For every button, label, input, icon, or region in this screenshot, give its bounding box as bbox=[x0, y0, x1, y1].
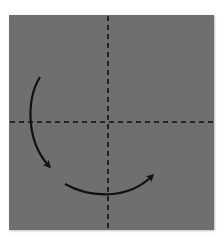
diagram-overlay bbox=[0, 0, 224, 237]
